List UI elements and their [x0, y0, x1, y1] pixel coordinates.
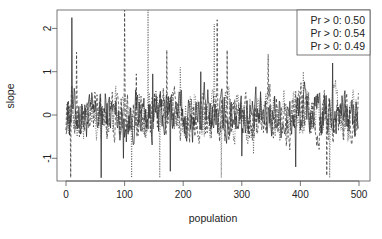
x-tick-label: 200 — [175, 189, 192, 200]
legend-entry-2: Pr > 0: 0.54 — [310, 27, 365, 39]
y-tick-label: 2 — [42, 25, 53, 31]
y-axis: -1012 — [42, 25, 57, 163]
legend-entry-1: Pr > 0: 0.50 — [310, 14, 365, 26]
y-tick-label: 0 — [42, 112, 53, 118]
x-tick-label: 500 — [351, 189, 368, 200]
legend-entry-3: Pr > 0: 0.49 — [310, 40, 365, 52]
x-axis: 0100200300400500 — [63, 181, 368, 200]
y-axis-title: slope — [4, 83, 16, 108]
x-tick-label: 0 — [63, 189, 69, 200]
x-tick-label: 300 — [233, 189, 250, 200]
x-axis-title: population — [189, 212, 238, 224]
y-tick-label: 1 — [42, 68, 53, 74]
x-tick-label: 400 — [292, 189, 309, 200]
x-tick-label: 100 — [116, 189, 133, 200]
y-tick-label: -1 — [42, 153, 53, 162]
line-chart: 0100200300400500 -1012 population slope … — [0, 0, 382, 239]
legend: Pr > 0: 0.50 Pr > 0: 0.54 Pr > 0: 0.49 — [297, 10, 370, 55]
